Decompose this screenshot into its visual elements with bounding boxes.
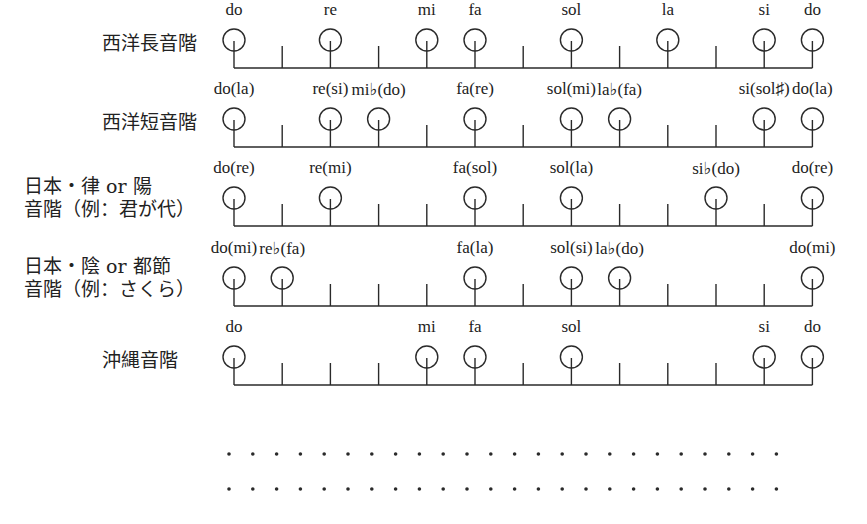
note-label: re(si) <box>312 79 348 99</box>
note-label: sol(la) <box>550 158 593 178</box>
placeholder-dot <box>418 452 422 456</box>
note-label: re(mi) <box>309 158 351 178</box>
scale-name-line: 音階（例：さくら） <box>24 278 195 301</box>
placeholder-dot <box>489 452 493 456</box>
placeholder-dot <box>275 487 279 491</box>
note-label: si <box>759 0 770 20</box>
note-label: fa(la) <box>457 238 494 258</box>
note-label: do <box>226 0 243 20</box>
note-label: si <box>759 317 770 337</box>
placeholder-dot <box>418 487 422 491</box>
note-label: la♭(fa) <box>597 79 642 100</box>
placeholder-dot <box>322 452 326 456</box>
note-label: sol <box>561 317 581 337</box>
placeholder-dot <box>227 452 231 456</box>
placeholder-dot <box>679 487 683 491</box>
placeholder-dot <box>346 452 350 456</box>
placeholder-dot <box>441 487 445 491</box>
placeholder-dot <box>299 487 303 491</box>
placeholder-dot <box>227 487 231 491</box>
placeholder-dot <box>775 452 779 456</box>
placeholder-dot <box>275 452 279 456</box>
placeholder-dot <box>608 452 612 456</box>
note-label: mi <box>418 317 436 337</box>
placeholder-dot <box>513 452 517 456</box>
scale-name-line: 日本・陰 or 都節 <box>24 255 195 278</box>
placeholder-dot <box>656 452 660 456</box>
placeholder-dot <box>370 487 374 491</box>
scale-name-label: 沖縄音階 <box>102 349 178 372</box>
placeholder-dot <box>727 452 731 456</box>
placeholder-dot <box>322 487 326 491</box>
placeholder-dot <box>513 487 517 491</box>
placeholder-dot <box>608 487 612 491</box>
scale-name-line: 沖縄音階 <box>102 349 178 372</box>
scale-name-label: 西洋長音階 <box>102 32 197 55</box>
placeholder-dot <box>679 452 683 456</box>
note-label: fa <box>468 0 481 20</box>
placeholder-dot <box>537 487 541 491</box>
placeholder-dot <box>584 452 588 456</box>
placeholder-dot <box>465 452 469 456</box>
note-label: fa(re) <box>456 79 494 99</box>
note-label: mi♭(do) <box>351 79 405 100</box>
scale-name-label: 日本・陰 or 都節音階（例：さくら） <box>24 255 195 301</box>
note-label: do(la) <box>792 79 833 99</box>
note-label: do(mi) <box>211 238 257 258</box>
placeholder-dot <box>560 487 564 491</box>
placeholder-dot <box>394 452 398 456</box>
placeholder-dot <box>394 487 398 491</box>
note-label: do(re) <box>213 158 255 178</box>
note-label: si♭(do) <box>692 158 740 179</box>
placeholder-dot <box>632 487 636 491</box>
scale-name-line: 西洋短音階 <box>102 111 197 134</box>
placeholder-dot <box>751 452 755 456</box>
placeholder-dot <box>560 452 564 456</box>
placeholder-dot <box>346 487 350 491</box>
placeholder-dot <box>370 452 374 456</box>
note-label: do(mi) <box>789 238 835 258</box>
placeholder-dot <box>584 487 588 491</box>
placeholder-dot <box>656 487 660 491</box>
note-label: do(re) <box>792 158 834 178</box>
placeholder-dot <box>489 487 493 491</box>
note-label: mi <box>418 0 436 20</box>
note-label: la <box>662 0 674 20</box>
note-label: do <box>804 317 821 337</box>
placeholder-dot <box>251 487 255 491</box>
placeholder-dot <box>703 487 707 491</box>
placeholder-dot <box>751 487 755 491</box>
note-label: re <box>324 0 337 20</box>
note-label: sol <box>561 0 581 20</box>
scale-name-line: 西洋長音階 <box>102 32 197 55</box>
placeholder-dot <box>441 452 445 456</box>
placeholder-dot <box>703 452 707 456</box>
scale-name-label: 日本・律 or 陽音階（例：君が代） <box>24 175 195 221</box>
placeholder-dot <box>465 487 469 491</box>
placeholder-dot <box>251 452 255 456</box>
note-label: si(sol♯) <box>739 79 790 99</box>
scale-name-line: 日本・律 or 陽 <box>24 175 195 198</box>
note-label: fa(sol) <box>453 158 497 178</box>
note-label: do(la) <box>214 79 255 99</box>
placeholder-dot <box>632 452 636 456</box>
placeholder-dot <box>299 452 303 456</box>
note-label: la♭(do) <box>595 238 644 259</box>
scale-name-line: 音階（例：君が代） <box>24 198 195 221</box>
scale-name-label: 西洋短音階 <box>102 111 197 134</box>
placeholder-dot <box>727 487 731 491</box>
note-label: fa <box>468 317 481 337</box>
placeholder-dot <box>775 487 779 491</box>
note-label: sol(si) <box>550 238 593 258</box>
note-label: do <box>804 0 821 20</box>
note-label: sol(mi) <box>547 79 596 99</box>
note-label: do <box>226 317 243 337</box>
placeholder-dot <box>537 452 541 456</box>
note-label: re♭(fa) <box>259 238 305 259</box>
